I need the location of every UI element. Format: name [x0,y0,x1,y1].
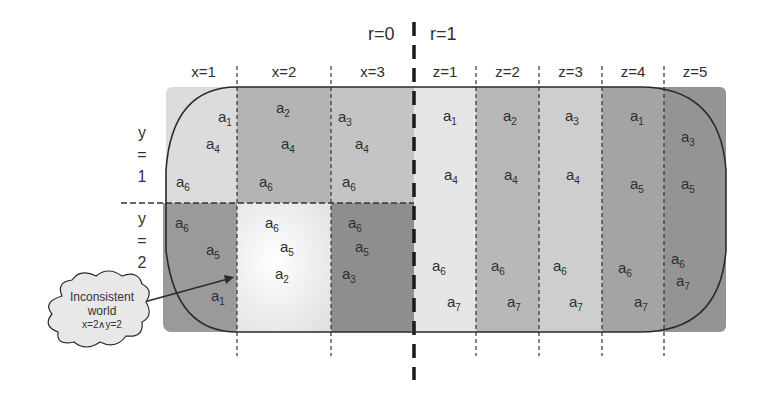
atom-label: a7 [676,272,690,292]
callout-text: Inconsistent world x=2∧y=2 [54,290,150,332]
atom-label: a1 [218,108,232,128]
atom-label: a5 [681,175,695,195]
row-label-y2-val: 2 [132,252,152,274]
atom-label: a1 [630,107,644,127]
atom-label: a7 [634,293,648,313]
atom-label: a2 [503,107,517,127]
atom-label: a7 [569,293,583,313]
atom-label: a5 [206,241,220,261]
atom-label: a6 [553,257,567,277]
atom-label: a3 [565,107,579,127]
atom-label: a3 [681,128,695,148]
header-z1: z=1 [414,63,476,80]
atom-label: a1 [211,287,225,307]
row-label-y1-eq: = [132,144,152,166]
atom-label: a7 [507,293,521,313]
header-x1: x=1 [170,63,237,80]
atom-label: a2 [275,265,289,285]
atom-label: a4 [504,166,518,186]
atom-label: a4 [355,135,369,155]
header-z3: z=3 [539,63,602,80]
atom-label: a4 [444,166,458,186]
atom-label: a6 [175,214,189,234]
atom-label: a5 [280,238,294,258]
atom-label: a6 [259,173,273,193]
atom-label: a6 [491,257,505,277]
header-x3: x=3 [331,63,414,80]
row-label-y1-val: 1 [132,166,152,188]
atom-label: a6 [265,214,279,234]
row-label-y2-eq: = [132,230,152,252]
atom-label: a5 [630,175,644,195]
diagram-lines [0,0,760,403]
row-label-y1: y = 1 [132,122,152,188]
atom-label: a4 [281,135,295,155]
callout-line-1: Inconsistent [54,290,150,304]
atom-label: a4 [206,135,220,155]
header-r1: r=1 [430,24,457,45]
atom-label: a6 [671,250,685,270]
arrow-head-icon [224,275,234,284]
atom-label: a6 [432,257,446,277]
atom-label: a3 [338,108,352,128]
atom-label: a4 [566,166,580,186]
row-label-y2-var: y [132,208,152,230]
callout-line-2: world [54,304,150,318]
atom-label: a5 [355,238,369,258]
row-label-y1-var: y [132,122,152,144]
header-z4: z=4 [602,63,664,80]
header-x2: x=2 [237,63,331,80]
callout-line-3: x=2∧y=2 [54,318,150,332]
atom-label: a3 [342,265,356,285]
atom-label: a1 [443,107,457,127]
header-r0: r=0 [368,24,395,45]
row-label-y2: y = 2 [132,208,152,274]
header-z5: z=5 [664,63,726,80]
atom-label: a6 [342,173,356,193]
atom-label: a6 [618,259,632,279]
atom-label: a6 [176,173,190,193]
atom-label: a6 [348,214,362,234]
header-z2: z=2 [476,63,539,80]
atom-label: a2 [276,99,290,119]
atom-label: a7 [447,293,461,313]
